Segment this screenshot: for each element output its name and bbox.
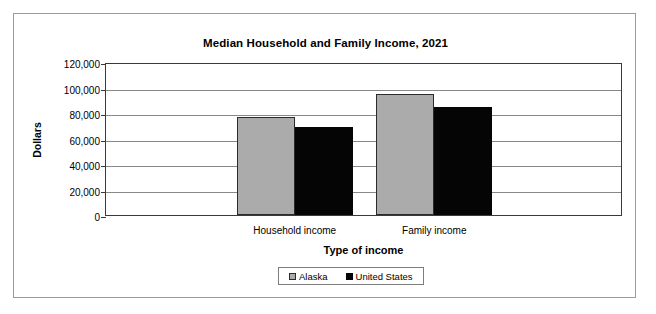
y-tick-mark <box>101 64 106 65</box>
gridline <box>106 115 621 116</box>
chart-title: Median Household and Family Income, 2021 <box>14 37 637 49</box>
bar-united-states-household-income <box>295 127 353 215</box>
y-tick-mark <box>101 115 106 116</box>
gridline <box>106 141 621 142</box>
legend-entry-alaska: Alaska <box>289 271 328 282</box>
legend-label: Alaska <box>299 271 328 282</box>
bar-united-states-family-income <box>434 107 492 215</box>
gridline <box>106 90 621 91</box>
y-tick-label: 40,000 <box>30 161 100 172</box>
x-tick-label: Family income <box>349 225 519 236</box>
y-tick-label: 20,000 <box>30 186 100 197</box>
y-tick-label: 0 <box>30 212 100 223</box>
y-tick-label: 80,000 <box>30 110 100 121</box>
gridline <box>106 166 621 167</box>
y-tick-mark <box>101 192 106 193</box>
bar-alaska-family-income <box>376 94 434 215</box>
legend-label: United States <box>356 271 413 282</box>
x-axis-title: Type of income <box>105 244 622 256</box>
y-tick-label: 100,000 <box>30 84 100 95</box>
chart-figure-frame: Median Household and Family Income, 2021… <box>13 13 636 298</box>
y-tick-label: 60,000 <box>30 135 100 146</box>
y-tick-mark <box>101 141 106 142</box>
y-tick-label: 120,000 <box>30 59 100 70</box>
legend-swatch-icon <box>289 273 296 280</box>
gridline <box>106 192 621 193</box>
legend-swatch-icon <box>346 273 353 280</box>
plot-area: 020,00040,00060,00080,000100,000120,000H… <box>105 63 622 216</box>
y-tick-mark <box>101 90 106 91</box>
y-tick-mark <box>101 166 106 167</box>
legend-entry-united-states: United States <box>346 271 413 282</box>
chart-legend: AlaskaUnited States <box>278 267 424 285</box>
bar-alaska-household-income <box>237 117 295 215</box>
y-tick-mark <box>101 217 106 218</box>
